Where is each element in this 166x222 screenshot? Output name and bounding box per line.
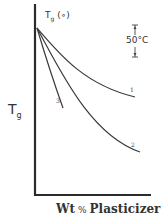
y-axis-label: Tg (8, 102, 22, 120)
scale-bar-label: 50°C (126, 36, 148, 45)
curve-2-label: 2 (131, 142, 135, 148)
curve-1-label: 1 (130, 87, 134, 93)
tg-plasticizer-diagram: Tg (∘) 50°C Tg Wt%Plasticizer 1 2 3 (0, 0, 166, 222)
curve-2 (37, 28, 140, 152)
curve-3-label: 3 (56, 98, 60, 104)
y-axis-label-sub: g (17, 111, 22, 120)
x-axis-label-pct: % (78, 205, 87, 215)
x-axis-label-plasticizer: Plasticizer (90, 202, 161, 216)
curve-1 (37, 28, 135, 97)
x-axis-label-wt: Wt (56, 202, 75, 216)
origin-tg-label: Tg (∘) (45, 11, 70, 22)
chart-canvas (0, 0, 166, 222)
y-axis-label-main: T (8, 101, 17, 117)
x-axis-label: Wt%Plasticizer (56, 203, 160, 215)
origin-tg-rest: (∘) (54, 10, 70, 20)
